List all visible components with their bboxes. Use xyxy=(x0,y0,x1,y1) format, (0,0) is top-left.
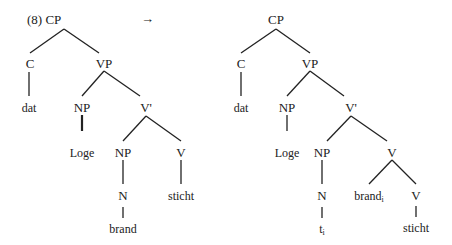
example-number: (8) CP xyxy=(27,13,61,27)
right-np-subject-node: NP xyxy=(279,101,296,115)
right-vp-node: VP xyxy=(302,57,319,71)
trace-index: i xyxy=(323,228,325,237)
incorporated-word: brand xyxy=(354,189,381,203)
left-n-node: N xyxy=(118,189,127,203)
right-c-word: dat xyxy=(234,101,249,115)
right-v-word: sticht xyxy=(403,221,429,235)
right-np-object-node: NP xyxy=(314,146,331,160)
right-cp-node: CP xyxy=(268,13,284,27)
left-np-subject-word: Loge xyxy=(70,146,95,160)
left-vbar-node: V' xyxy=(140,101,152,115)
right-incorporated-noun: brandi xyxy=(354,189,384,207)
left-c-node: C xyxy=(26,57,35,71)
left-np-object-node: NP xyxy=(115,146,132,160)
left-n-word: brand xyxy=(109,222,136,236)
left-vp-node: VP xyxy=(96,57,113,71)
right-n-node: N xyxy=(317,189,326,203)
left-v-word: sticht xyxy=(168,189,194,203)
right-vbar-node: V' xyxy=(345,101,357,115)
right-np-subject-word: Loge xyxy=(275,146,300,160)
example-number-text: (8) xyxy=(27,12,42,27)
right-v-complex-node: V xyxy=(387,146,396,160)
tree-branches xyxy=(0,0,452,245)
left-c-word: dat xyxy=(22,101,37,115)
incorporated-index: i xyxy=(382,195,384,204)
right-c-node: C xyxy=(237,57,246,71)
left-v-node: V xyxy=(176,146,185,160)
right-v-node: V xyxy=(411,189,420,203)
right-trace: ti xyxy=(319,222,325,240)
left-np-subject-node: NP xyxy=(74,101,91,115)
transformation-arrow: → xyxy=(141,12,154,26)
left-cp-node: CP xyxy=(45,12,61,27)
